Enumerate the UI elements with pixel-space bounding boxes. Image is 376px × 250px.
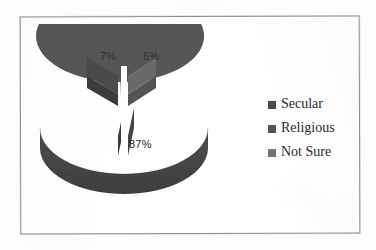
screenshot-root: 7% 6% 87% Secular Religious Not Sure bbox=[0, 0, 376, 250]
legend-swatch-icon-notsure bbox=[268, 149, 276, 157]
legend-label-notsure: Not Sure bbox=[281, 145, 331, 159]
pie-chart-svg bbox=[32, 24, 232, 194]
pie-chart bbox=[32, 24, 232, 194]
pie-slice-religious-top bbox=[36, 24, 204, 134]
legend-label-religious: Religious bbox=[281, 121, 335, 135]
slice-gap bbox=[121, 66, 127, 144]
data-label-secular: 7% bbox=[100, 50, 116, 62]
legend-item-religious[interactable]: Religious bbox=[268, 116, 354, 140]
legend-swatch-icon-religious bbox=[268, 125, 276, 133]
legend-item-notsure[interactable]: Not Sure bbox=[268, 140, 354, 164]
legend-swatch-icon-secular bbox=[268, 101, 276, 109]
data-label-religious: 87% bbox=[129, 138, 152, 150]
data-label-notsure: 6% bbox=[143, 50, 159, 62]
chart-legend: Secular Religious Not Sure bbox=[268, 92, 354, 164]
legend-item-secular[interactable]: Secular bbox=[268, 92, 354, 116]
legend-label-secular: Secular bbox=[281, 97, 323, 111]
